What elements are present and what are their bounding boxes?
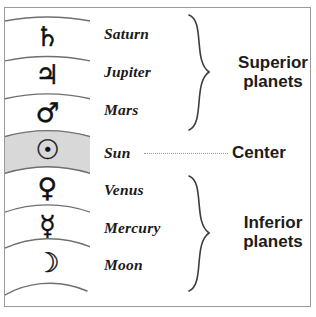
planetary-spheres-diagram: ♄ ♃ ♂ ☉ ♀ ☿ ☽ Saturn Jupiter Mars Sun Ve…: [0, 0, 316, 317]
superior-planets-label: Superior planets: [232, 53, 314, 91]
venus-symbol-icon: ♀: [5, 174, 90, 201]
mercury-symbol-icon: ☿: [5, 212, 90, 239]
label-moon: Moon: [104, 256, 143, 274]
inferior-planets-label: Inferior planets: [232, 213, 314, 251]
label-mars: Mars: [104, 101, 138, 119]
label-saturn: Saturn: [104, 25, 149, 43]
jupiter-symbol-icon: ♃: [5, 61, 90, 88]
center-leader-line: [144, 153, 228, 155]
superior-planets-brace: [183, 13, 219, 133]
label-venus: Venus: [104, 181, 144, 199]
shell-arc-8: [5, 283, 87, 300]
sun-symbol-icon: ☉: [5, 136, 90, 163]
label-jupiter: Jupiter: [104, 63, 151, 81]
label-sun: Sun: [104, 144, 130, 162]
saturn-symbol-icon: ♄: [5, 23, 90, 50]
mars-symbol-icon: ♂: [5, 99, 90, 126]
moon-symbol-icon: ☽: [5, 249, 90, 276]
inferior-planets-brace: [183, 174, 219, 294]
center-label: Center: [232, 143, 314, 162]
label-mercury: Mercury: [104, 219, 161, 237]
